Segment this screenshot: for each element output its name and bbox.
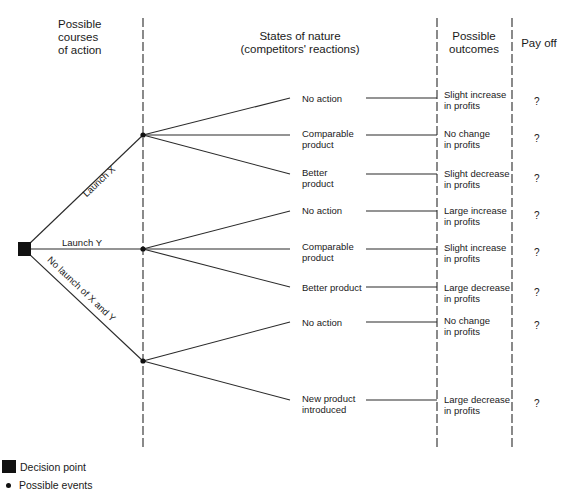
header-possible-outcomes: Possible outcomes	[440, 30, 508, 56]
header-courses-of-action: Possible courses of action	[58, 18, 130, 57]
payoff-value: ?	[534, 133, 540, 144]
decision-square-icon	[2, 460, 16, 473]
legend-decision-point: Decision point	[2, 460, 86, 473]
payoff-value: ?	[534, 96, 540, 107]
state-label: Better product	[302, 282, 362, 293]
outcome-label: Slight increasein profits	[444, 242, 506, 264]
outcome-label: Large decreasein profits	[444, 394, 510, 416]
header-payoff: Pay off	[514, 37, 564, 50]
payoff-value: ?	[534, 287, 540, 298]
payoff-value: ?	[534, 247, 540, 258]
state-label: Comparableproduct	[302, 241, 354, 263]
event-node-launch-x	[140, 132, 145, 137]
state-label: Betterproduct	[302, 167, 334, 189]
decision-point-node	[18, 242, 31, 256]
payoff-value: ?	[534, 173, 540, 184]
header-states-of-nature: States of nature (competitors' reactions…	[210, 30, 390, 56]
outcome-label: No changein profits	[444, 315, 490, 337]
branch-no-launch	[27, 252, 143, 361]
legend-possible-events: Possible events	[2, 479, 93, 491]
event-node-launch-y	[140, 246, 145, 251]
state-label: New productintroduced	[302, 393, 355, 415]
state-label: No action	[302, 317, 342, 328]
outcome-label: Large decreasein profits	[444, 282, 510, 304]
payoff-value: ?	[534, 398, 540, 409]
event-dot-icon	[6, 483, 11, 488]
event-node-no-launch	[140, 358, 145, 363]
payoff-value: ?	[534, 210, 540, 221]
state-label: No action	[302, 205, 342, 216]
outcome-label: Large increasein profits	[444, 205, 507, 227]
payoff-value: ?	[534, 320, 540, 331]
state-label: Comparableproduct	[302, 128, 354, 150]
action-label-launch-y: Launch Y	[62, 237, 102, 248]
outcome-label: No changein profits	[444, 128, 490, 150]
state-label: No action	[302, 93, 342, 104]
outcome-label: Slight decreasein profits	[444, 168, 509, 190]
outcome-label: Slight increasein profits	[444, 89, 506, 111]
